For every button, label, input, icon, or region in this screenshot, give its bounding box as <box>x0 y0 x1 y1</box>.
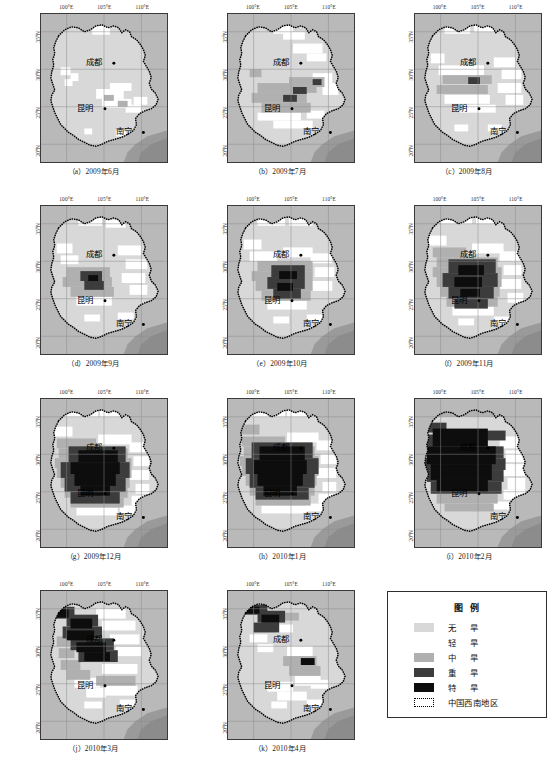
svg-text:成都: 成都 <box>273 57 290 67</box>
legend-label: 轻 旱 <box>448 636 481 648</box>
panel-grid: 100°E105°E110°E35°N30°N25°N20°N成都昆明南宁（a）… <box>0 0 560 769</box>
latitude-axis-d: 35°N30°N25°N20°N <box>18 205 40 355</box>
latitude-axis-j: 35°N30°N25°N20°N <box>18 590 40 740</box>
svg-text:成都: 成都 <box>86 250 103 260</box>
panel-caption-j: （j）2010年3月 <box>18 742 168 753</box>
map-g: 成都昆明南宁 <box>40 398 168 548</box>
lon-tick: 105°E <box>284 196 298 202</box>
legend-item-extreme: 特 旱 <box>388 680 546 695</box>
panel-caption-g: （g）2009年12月 <box>18 550 168 561</box>
lon-tick: 100°E <box>246 4 260 10</box>
svg-text:昆明: 昆明 <box>264 487 280 497</box>
svg-text:南宁: 南宁 <box>116 703 132 713</box>
panel-j: 100°E105°E110°E35°N30°N25°N20°N成都昆明南宁（j）… <box>0 577 187 769</box>
lon-tick: 100°E <box>246 196 260 202</box>
map-b: 成都昆明南宁 <box>227 13 355 163</box>
panel-d: 100°E105°E110°E35°N30°N25°N20°N成都昆明南宁（d）… <box>0 192 187 384</box>
map-d: 成都昆明南宁 <box>40 205 168 355</box>
lon-tick: 110°E <box>322 581 336 587</box>
legend-swatch-region-boundary <box>414 698 434 707</box>
latitude-axis-k: 35°N30°N25°N20°N <box>205 590 227 740</box>
lon-tick: 110°E <box>322 196 336 202</box>
svg-text:南宁: 南宁 <box>303 703 319 713</box>
svg-text:成都: 成都 <box>86 57 103 67</box>
svg-text:成都: 成都 <box>460 250 477 260</box>
longitude-axis-h: 100°E105°E110°E <box>227 385 355 398</box>
svg-text:成都: 成都 <box>273 634 290 644</box>
longitude-axis-e: 100°E105°E110°E <box>227 192 355 205</box>
lon-tick: 105°E <box>97 581 111 587</box>
legend-title: 图例 <box>388 601 546 614</box>
panel-caption-i: （i）2010年2月 <box>392 550 542 561</box>
longitude-axis-k: 100°E105°E110°E <box>227 577 355 590</box>
map-h: 成都昆明南宁 <box>227 398 355 548</box>
lon-tick: 110°E <box>135 196 149 202</box>
lon-tick: 100°E <box>433 196 447 202</box>
panel-caption-e: （e）2009年10月 <box>205 357 355 368</box>
svg-text:昆明: 昆明 <box>451 103 467 113</box>
legend-box: 图例无 旱轻 旱中 旱重 旱特 旱中国西南地区 <box>387 591 547 718</box>
longitude-axis-c: 100°E105°E110°E <box>414 0 542 13</box>
legend-item-light: 轻 旱 <box>388 635 546 650</box>
lon-tick: 100°E <box>59 4 73 10</box>
svg-text:成都: 成都 <box>460 442 477 452</box>
map-e: 成都昆明南宁 <box>227 205 355 355</box>
panel-b: 100°E105°E110°E35°N30°N25°N20°N成都昆明南宁（b）… <box>187 0 374 192</box>
latitude-axis-e: 35°N30°N25°N20°N <box>205 205 227 355</box>
drought-figure: 100°E105°E110°E35°N30°N25°N20°N成都昆明南宁（a）… <box>0 0 560 769</box>
panel-f: 100°E105°E110°E35°N30°N25°N20°N成都昆明南宁（f）… <box>373 192 560 384</box>
lon-tick: 105°E <box>284 581 298 587</box>
longitude-axis-g: 100°E105°E110°E <box>40 385 168 398</box>
svg-text:成都: 成都 <box>86 442 103 452</box>
legend-item-region-boundary: 中国西南地区 <box>388 695 546 710</box>
panel-h: 100°E105°E110°E35°N30°N25°N20°N成都昆明南宁（h）… <box>187 385 374 577</box>
svg-text:昆明: 昆明 <box>78 103 94 113</box>
lon-tick: 110°E <box>509 196 523 202</box>
map-i: 成都昆明南宁 <box>414 398 542 548</box>
panel-caption-c: （c）2009年8月 <box>392 165 542 176</box>
panel-caption-a: （a）2009年6月 <box>18 165 168 176</box>
panel-k: 100°E105°E110°E35°N30°N25°N20°N成都昆明南宁（k）… <box>187 577 374 769</box>
legend-swatch-light <box>414 638 434 647</box>
latitude-axis-g: 35°N30°N25°N20°N <box>18 398 40 548</box>
svg-text:南宁: 南宁 <box>489 319 505 329</box>
latitude-axis-h: 35°N30°N25°N20°N <box>205 398 227 548</box>
legend-swatch-none <box>414 623 434 632</box>
latitude-axis-i: 35°N30°N25°N20°N <box>392 398 414 548</box>
map-k: 成都昆明南宁 <box>227 590 355 740</box>
lon-tick: 100°E <box>59 581 73 587</box>
panel-caption-h: （h）2010年1月 <box>205 550 355 561</box>
longitude-axis-a: 100°E105°E110°E <box>40 0 168 13</box>
lon-tick: 110°E <box>322 4 336 10</box>
lon-tick: 100°E <box>433 4 447 10</box>
svg-text:南宁: 南宁 <box>116 126 132 136</box>
map-a: 成都昆明南宁 <box>40 13 168 163</box>
svg-text:昆明: 昆明 <box>264 295 280 305</box>
panel-i: 100°E105°E110°E35°N30°N25°N20°N成都昆明南宁（i）… <box>373 385 560 577</box>
svg-text:成都: 成都 <box>273 250 290 260</box>
lon-tick: 105°E <box>97 4 111 10</box>
legend-item-moderate: 中 旱 <box>388 650 546 665</box>
legend-cell: 图例无 旱轻 旱中 旱重 旱特 旱中国西南地区 <box>373 577 560 769</box>
lon-tick: 100°E <box>246 581 260 587</box>
legend-label: 特 旱 <box>448 681 481 693</box>
longitude-axis-j: 100°E105°E110°E <box>40 577 168 590</box>
lon-tick: 110°E <box>135 389 149 395</box>
map-j: 成都昆明南宁 <box>40 590 168 740</box>
lon-tick: 105°E <box>284 389 298 395</box>
lon-tick: 100°E <box>246 389 260 395</box>
legend-label: 重 旱 <box>448 666 481 678</box>
longitude-axis-d: 100°E105°E110°E <box>40 192 168 205</box>
longitude-axis-b: 100°E105°E110°E <box>227 0 355 13</box>
svg-text:南宁: 南宁 <box>116 319 132 329</box>
lon-tick: 105°E <box>284 4 298 10</box>
panel-caption-f: （f）2009年11月 <box>392 357 542 368</box>
lon-tick: 105°E <box>97 196 111 202</box>
svg-text:南宁: 南宁 <box>303 319 319 329</box>
svg-text:南宁: 南宁 <box>116 511 132 521</box>
legend-label: 中 旱 <box>448 651 481 663</box>
svg-text:昆明: 昆明 <box>451 487 467 497</box>
lon-tick: 110°E <box>322 389 336 395</box>
lon-tick: 100°E <box>433 389 447 395</box>
legend-label: 中国西南地区 <box>448 696 498 708</box>
